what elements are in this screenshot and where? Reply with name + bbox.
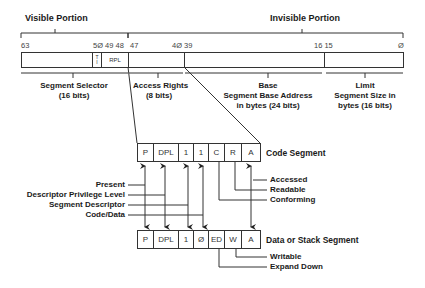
ti-field-bottom: I (96, 60, 97, 65)
code-cell-p: P (138, 144, 154, 161)
data-cell-a: A (242, 231, 260, 248)
data-cell-w: W (225, 231, 242, 248)
access-rights-field (129, 53, 185, 67)
base-label: Base Segment Base Address in bytes (24 b… (220, 81, 316, 111)
data-cell-ed: ED (209, 231, 225, 248)
base-field (185, 53, 325, 67)
limit-title: Limit (330, 81, 400, 91)
code-cell-c: C (209, 144, 225, 161)
data-cell-p: P (138, 231, 154, 248)
segment-selector-title: Segment Selector (38, 81, 110, 91)
code-cell-a: A (242, 144, 260, 161)
flag-present: Present (96, 180, 125, 190)
base-bits: in bytes (24 bits) (220, 101, 316, 111)
code-cell-type: 1 (194, 144, 209, 161)
code-cell-r: R (225, 144, 242, 161)
base-desc: Segment Base Address (220, 91, 316, 101)
ti-field: T I (93, 53, 102, 67)
limit-bits: bytes (16 bits) (330, 101, 400, 111)
descriptor-register-bar: T I RPL (21, 52, 404, 68)
data-segment-title: Data or Stack Segment (266, 235, 359, 245)
bit-0: Ø (398, 41, 404, 50)
flag-accessed: Accessed (270, 175, 307, 185)
data-cell-s: 1 (179, 231, 194, 248)
flag-readable: Readable (270, 185, 306, 195)
segment-selector-label: Segment Selector (16 bits) (38, 81, 110, 101)
visible-portion-header: Visible Portion (25, 13, 88, 23)
limit-field (325, 53, 403, 67)
invisible-portion-header: Invisible Portion (270, 13, 340, 23)
code-cell-dpl: DPL (154, 144, 179, 161)
selector-index-field (22, 53, 93, 67)
data-cell-type: Ø (194, 231, 209, 248)
flag-code-data: Code/Data (85, 210, 125, 220)
limit-label: Limit Segment Size in bytes (16 bits) (330, 81, 400, 111)
bit-16-15: 16 15 (314, 41, 333, 50)
access-rights-bits: (8 bits) (133, 91, 185, 101)
flag-expand-down: Expand Down (270, 262, 323, 272)
code-segment-title: Code Segment (266, 148, 326, 158)
flag-segment-descriptor: Segment Descriptor (49, 200, 125, 210)
base-title: Base (220, 81, 316, 91)
data-cell-dpl: DPL (154, 231, 179, 248)
flag-conforming: Conforming (270, 195, 315, 205)
flag-writable: Writable (270, 252, 301, 262)
bit-47: 47 (130, 41, 138, 50)
access-rights-title: Access Rights (133, 81, 185, 91)
bit-50-49-48: 5Ø 49 48 (93, 41, 124, 50)
rpl-field: RPL (102, 53, 129, 67)
code-segment-box: P DPL 1 1 C R A (137, 143, 261, 162)
bit-63: 63 (21, 41, 29, 50)
segment-selector-bits: (16 bits) (38, 91, 110, 101)
limit-desc: Segment Size in (330, 91, 400, 101)
bit-40-39: 4Ø 39 (172, 41, 192, 50)
access-rights-label: Access Rights (8 bits) (133, 81, 185, 101)
flag-dpl: Descriptor Privilege Level (27, 190, 125, 200)
code-cell-s: 1 (179, 144, 194, 161)
data-segment-box: P DPL 1 Ø ED W A (137, 230, 261, 249)
